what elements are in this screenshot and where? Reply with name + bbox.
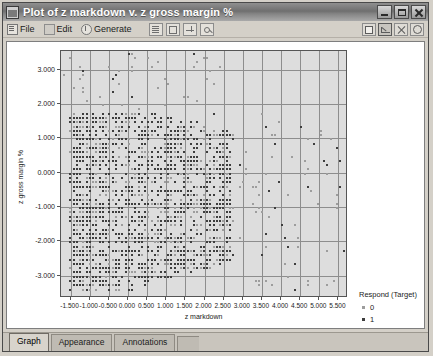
x-tick-mark [89, 297, 90, 300]
zoom-region-button[interactable] [378, 23, 392, 36]
edit-chart-button[interactable] [183, 23, 197, 36]
x-tick-label: -0.500 [99, 302, 117, 309]
file-menu-icon [7, 24, 18, 35]
y-axis-title: z gross margin % [17, 149, 24, 203]
x-axis-title: z markdown [60, 313, 347, 320]
chart-window-icon [6, 6, 19, 19]
x-tick-mark [165, 297, 166, 300]
menu-label-generate: Generate [94, 24, 132, 34]
x-tick-mark [280, 297, 281, 300]
x-tick-mark [318, 297, 319, 300]
toolbar-right-group [362, 23, 424, 36]
scatter-chart: 3.0002.0001.0000.000-1.000-2.000-3.000 -… [7, 42, 424, 328]
legend-marker-1-icon [362, 318, 365, 321]
menu-toolbar: File Edit Generate [3, 21, 428, 38]
close-view-button[interactable] [394, 23, 408, 36]
x-tick-mark [223, 297, 224, 300]
generate-menu-icon [81, 24, 92, 35]
legend: Respond (Target) 0 1 [359, 290, 425, 327]
copy-button[interactable] [149, 23, 163, 36]
maximize-button[interactable] [394, 5, 409, 19]
legend-title: Respond (Target) [359, 290, 425, 299]
menu-label-edit: Edit [57, 24, 73, 34]
x-tick-label: 3.500 [253, 302, 269, 309]
x-tick-mark [299, 297, 300, 300]
chart-canvas[interactable]: 3.0002.0001.0000.000-1.000-2.000-3.000 -… [6, 41, 425, 329]
screen: Plot of z markdown v. z gross margin % F… [0, 0, 433, 356]
x-tick-mark [127, 297, 128, 300]
tab-filler [177, 336, 199, 351]
x-tick-mark [204, 297, 205, 300]
legend-item-1[interactable]: 1 [359, 315, 425, 324]
close-button[interactable] [411, 5, 426, 19]
x-tick-label: 2.500 [214, 302, 230, 309]
x-tick-label: 0.000 [119, 302, 135, 309]
magnify-button[interactable] [200, 23, 214, 36]
x-tick-label: 5.500 [329, 302, 345, 309]
title-bar[interactable]: Plot of z markdown v. z gross margin % [3, 3, 428, 21]
x-tick-mark [146, 297, 147, 300]
menu-item-generate[interactable]: Generate [81, 24, 132, 35]
menu-label-file: File [20, 24, 35, 34]
edit-menu-icon [44, 24, 55, 35]
tab-appearance[interactable]: Appearance [51, 334, 113, 351]
panel-toggle-button[interactable] [362, 23, 376, 36]
x-tick-label: 3.000 [234, 302, 250, 309]
x-tick-mark [242, 297, 243, 300]
x-tick-label: -1.500 [60, 302, 78, 309]
plot-window: Plot of z markdown v. z gross margin % F… [2, 2, 429, 352]
x-tick-mark [184, 297, 185, 300]
x-tick-label: 5.000 [310, 302, 326, 309]
legend-item-0[interactable]: 0 [359, 303, 425, 312]
x-tick-label: 4.000 [272, 302, 288, 309]
x-tick-label: -1.000 [79, 302, 97, 309]
x-tick-mark [337, 297, 338, 300]
menu-item-file[interactable]: File [7, 24, 35, 35]
x-tick-label: 1.000 [157, 302, 173, 309]
help-button[interactable] [410, 23, 424, 36]
x-tick-label: 1.500 [176, 302, 192, 309]
minimize-button[interactable] [377, 5, 392, 19]
legend-marker-0-icon [362, 306, 365, 309]
x-tick-mark [70, 297, 71, 300]
x-axis-labels: -1.500-1.000-0.5000.0000.5001.0001.5002.… [7, 42, 424, 328]
export-button[interactable] [166, 23, 180, 36]
window-title: Plot of z markdown v. z gross margin % [23, 6, 377, 18]
tab-bar: Graph Appearance Annotations [3, 332, 428, 351]
legend-label-0: 0 [370, 303, 374, 312]
legend-label-1: 1 [370, 315, 374, 324]
tab-annotations[interactable]: Annotations [114, 334, 175, 351]
x-tick-label: 0.500 [138, 302, 154, 309]
menu-item-edit[interactable]: Edit [44, 24, 73, 35]
x-tick-mark [261, 297, 262, 300]
x-tick-label: 2.000 [195, 302, 211, 309]
tab-graph[interactable]: Graph [9, 333, 49, 351]
window-controls [377, 5, 426, 19]
x-tick-mark [108, 297, 109, 300]
x-tick-label: 4.500 [291, 302, 307, 309]
